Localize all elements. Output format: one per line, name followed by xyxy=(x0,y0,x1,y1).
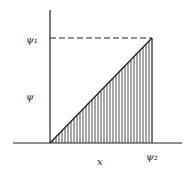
diagram-canvas: ψ₁ ψ x ψ₂ xyxy=(0,0,192,173)
y-axis-label: ψ xyxy=(26,91,34,102)
x-axis-label: x xyxy=(97,156,103,167)
x-right-tick-label: ψ₂ xyxy=(146,151,158,162)
y-top-tick-label: ψ₁ xyxy=(26,34,38,45)
